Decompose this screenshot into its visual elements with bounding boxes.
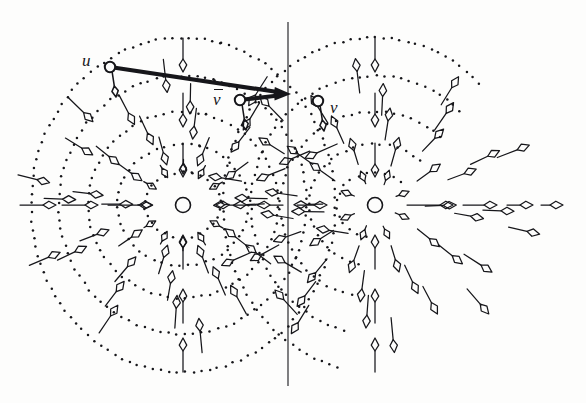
thick-vector-u-to-axis: [110, 67, 274, 91]
singularity-sink: [176, 198, 191, 213]
figure-root: u v v: [0, 0, 586, 403]
marked-point-v-bar: [235, 95, 245, 105]
marked-point-u: [105, 62, 115, 72]
label-v: v: [330, 99, 338, 116]
thick-vector-layer: [110, 67, 291, 100]
label-u: u: [82, 52, 91, 69]
label-v-bar: v: [213, 89, 223, 108]
marked-point-v: [313, 96, 323, 106]
singularity-source: [368, 198, 383, 213]
